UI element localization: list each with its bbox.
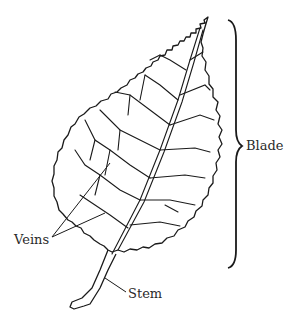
leaf-stem xyxy=(70,250,116,309)
blade-bracket xyxy=(228,20,242,268)
stem-label: Stem xyxy=(128,286,162,301)
leaf-diagram xyxy=(0,0,298,328)
veins-pointer-lines xyxy=(52,163,110,237)
veins-label: Veins xyxy=(14,232,49,247)
leaf-veins xyxy=(75,28,214,254)
blade-label: Blade xyxy=(246,138,283,153)
stem-pointer-line xyxy=(105,278,126,292)
